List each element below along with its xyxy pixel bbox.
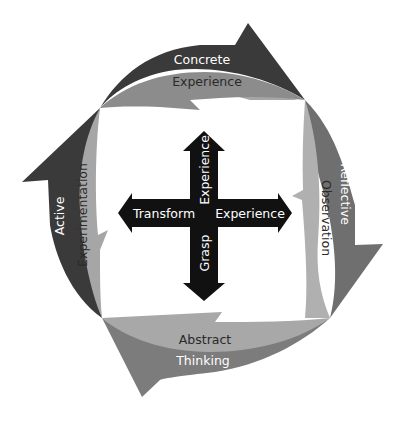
label-experience-top: Experience (172, 74, 242, 89)
label-experimentation: Experimentation (75, 163, 90, 267)
label-reflective: Reflective (338, 163, 353, 225)
label-active: Active (52, 196, 67, 235)
label-abstract: Abstract (179, 332, 232, 347)
label-concrete: Concrete (174, 52, 231, 67)
learning-cycle-diagram: Concrete Experience Reflective Observati… (0, 0, 405, 422)
label-thinking: Thinking (175, 353, 230, 368)
label-observation: Observation (319, 180, 334, 256)
cross-label-grasp: Grasp (197, 234, 212, 271)
cross-label-transform: Transform (132, 206, 195, 221)
cross-label-experience-up: Experience (197, 135, 212, 205)
cross-label-experience-right: Experience (215, 206, 285, 221)
arrow-reflective-observation (292, 100, 383, 318)
